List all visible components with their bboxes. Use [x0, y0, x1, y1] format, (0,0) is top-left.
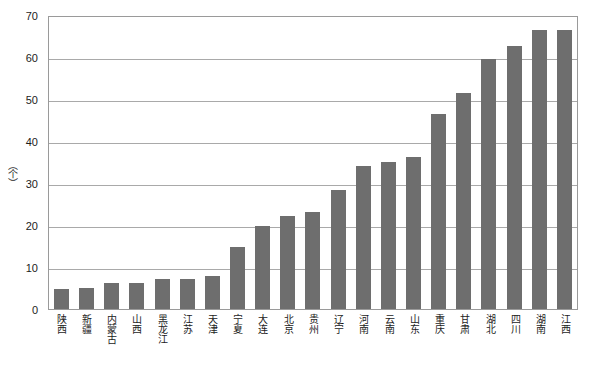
x-axis-label-slot: 湖南	[533, 311, 548, 367]
x-axis-category-label: 陕西	[55, 314, 66, 334]
x-axis-category-label: 辽宁	[333, 314, 344, 334]
x-axis-category-label: 河南	[358, 314, 369, 334]
x-axis-category-label: 江苏	[181, 314, 192, 334]
x-axis-label-slot: 新疆	[78, 311, 93, 367]
bar	[280, 216, 295, 309]
x-axis-label-slot: 湖北	[482, 311, 497, 367]
x-axis-category-label: 宁夏	[232, 314, 243, 334]
x-axis-category-label: 北京	[282, 314, 293, 334]
bars-container	[49, 17, 577, 309]
bar	[54, 289, 69, 309]
x-axis-category-label: 云南	[383, 314, 394, 334]
x-axis-category-labels: 陕西新疆内蒙古山西黑龙江江苏天津宁夏大连北京贵州辽宁河南云南山东重庆甘肃湖北四川…	[48, 311, 578, 367]
bar	[255, 226, 270, 309]
y-axis-tick-label: 0	[32, 304, 38, 316]
x-axis-label-slot: 云南	[381, 311, 396, 367]
bar-chart: （个） 706050403020100 陕西新疆内蒙古山西黑龙江江苏天津宁夏大连…	[0, 0, 589, 369]
x-axis-category-label: 山西	[131, 314, 142, 334]
bar	[104, 283, 119, 309]
bar	[406, 157, 421, 309]
x-axis-label-slot: 山东	[406, 311, 421, 367]
bar	[230, 247, 245, 309]
bar	[431, 114, 446, 309]
y-axis-tick-label: 60	[26, 52, 38, 64]
x-axis-category-label: 大连	[257, 314, 268, 334]
bar	[557, 30, 572, 309]
x-axis-label-slot: 江苏	[179, 311, 194, 367]
bar	[129, 283, 144, 309]
y-axis-tick-label: 10	[26, 262, 38, 274]
x-axis-label-slot: 辽宁	[331, 311, 346, 367]
x-axis-label-slot: 贵州	[305, 311, 320, 367]
x-axis-category-label: 江西	[560, 314, 571, 334]
x-axis-category-label: 湖南	[535, 314, 546, 334]
x-axis-label-slot: 河南	[356, 311, 371, 367]
x-axis-label-slot: 宁夏	[230, 311, 245, 367]
x-axis-category-label: 山东	[408, 314, 419, 334]
x-axis-label-slot: 山西	[129, 311, 144, 367]
y-axis-tick-label: 70	[26, 10, 38, 22]
bar	[79, 288, 94, 309]
y-axis-tick-label: 30	[26, 178, 38, 190]
x-axis-category-label: 四川	[509, 314, 520, 334]
y-axis-tick-label: 50	[26, 94, 38, 106]
x-axis-label-slot: 北京	[280, 311, 295, 367]
x-axis-category-label: 贵州	[307, 314, 318, 334]
bar	[456, 93, 471, 309]
x-axis-category-label: 内蒙古	[106, 314, 117, 344]
bar	[507, 46, 522, 309]
x-axis-category-label: 新疆	[80, 314, 91, 334]
x-axis-label-slot: 江西	[558, 311, 573, 367]
y-axis-tick-labels: 706050403020100	[0, 0, 44, 369]
y-axis-tick-label: 40	[26, 136, 38, 148]
bar	[205, 276, 220, 309]
bar	[381, 162, 396, 309]
x-axis-label-slot: 大连	[255, 311, 270, 367]
bar	[532, 30, 547, 309]
x-axis-label-slot: 黑龙江	[154, 311, 169, 367]
x-axis-label-slot: 重庆	[432, 311, 447, 367]
bar	[356, 166, 371, 309]
x-axis-category-label: 湖北	[484, 314, 495, 334]
bar	[180, 279, 195, 309]
bar	[481, 59, 496, 309]
x-axis-label-slot: 陕西	[53, 311, 68, 367]
x-axis-category-label: 黑龙江	[156, 314, 167, 344]
bar	[305, 212, 320, 309]
x-axis-category-label: 天津	[207, 314, 218, 334]
bar	[155, 279, 170, 309]
plot-area	[48, 16, 578, 310]
x-axis-label-slot: 天津	[205, 311, 220, 367]
x-axis-category-label: 甘肃	[459, 314, 470, 334]
x-axis-label-slot: 四川	[507, 311, 522, 367]
bar	[331, 190, 346, 309]
y-axis-tick-label: 20	[26, 220, 38, 232]
x-axis-label-slot: 内蒙古	[104, 311, 119, 367]
x-axis-category-label: 重庆	[434, 314, 445, 334]
x-axis-label-slot: 甘肃	[457, 311, 472, 367]
